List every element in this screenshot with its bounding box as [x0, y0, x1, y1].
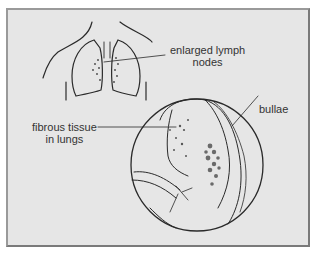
- label-bullae: bullae: [259, 103, 288, 115]
- left-lung: [72, 40, 102, 96]
- magnified-view: [131, 99, 263, 231]
- label-enlarged-lymph-nodes: enlarged lymph nodes: [170, 44, 245, 68]
- right-lung: [112, 40, 140, 96]
- bullae-clusters: [204, 144, 221, 186]
- left-shoulder-outline: [43, 22, 92, 78]
- label-fibrous-tissue: fibrous tissue in lungs: [32, 121, 97, 145]
- right-shoulder-outline: [120, 22, 152, 42]
- lymph-pointer: [104, 55, 165, 62]
- fibrous-speckles: [169, 119, 189, 157]
